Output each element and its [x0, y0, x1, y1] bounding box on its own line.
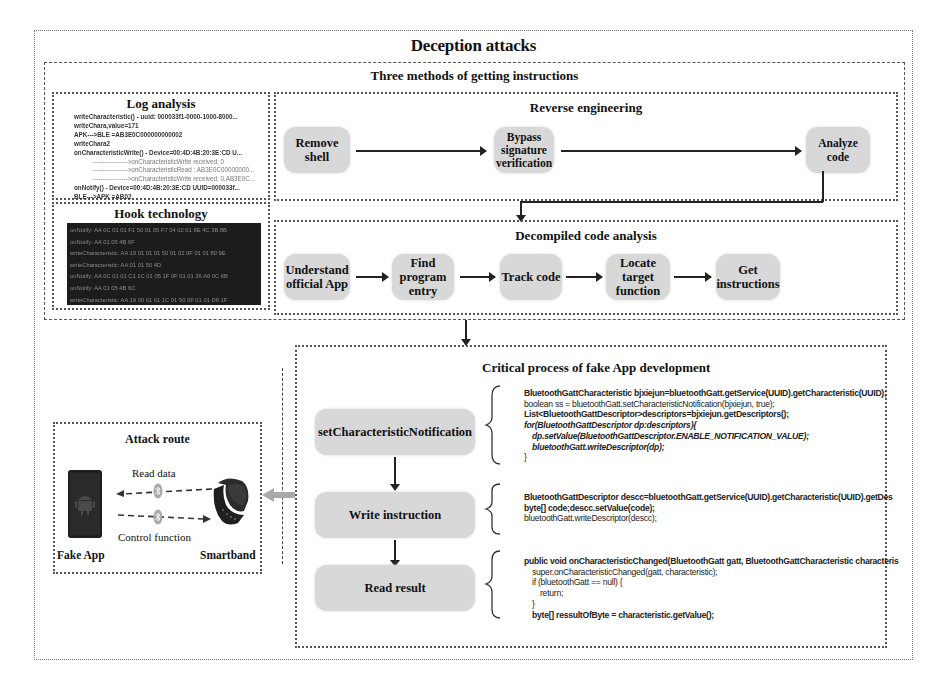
- connector-line: [822, 171, 824, 202]
- three-methods-title: Three methods of getting instructions: [44, 68, 905, 84]
- brace-icon: [484, 384, 504, 634]
- code-block-write: BluetoothGattDescriptor descc=bluetoothG…: [524, 492, 893, 524]
- code-line: bluetoothGatt.writeDescriptor(descc);: [524, 513, 893, 524]
- step-set-characteristic-notification: setCharacteristicNotification: [315, 409, 475, 455]
- control-function-label: Control function: [118, 531, 191, 543]
- log-line: ----------------->onCharacteristicWrite …: [74, 158, 262, 167]
- hook-line: writeCharacteristic: AA 19 01 01 01 50 0…: [70, 248, 258, 260]
- step-analyze-code: Analyze code: [806, 127, 870, 173]
- fake-app-label: Fake App: [57, 549, 105, 561]
- step-locate-target-function: Locate target function: [606, 254, 670, 300]
- code-line: boolean ss = bluetoothGatt.setCharacteri…: [524, 399, 887, 410]
- step-find-program-entry: Find program entry: [392, 254, 454, 300]
- log-line: APK--->BLE =AB3E0C000000000002: [74, 131, 262, 140]
- smartband-label: Smartband: [200, 549, 256, 561]
- reverse-engineering-panel: Reverse engineering Remove shell Bypass …: [274, 92, 898, 201]
- code-line: }: [524, 599, 899, 610]
- decompiled-code-analysis-title: Decompiled code analysis: [276, 228, 896, 244]
- control-function-arrow-icon: [114, 511, 214, 525]
- code-line: super.onCharacteristicChanged(gatt, char…: [524, 567, 899, 578]
- android-phone-icon: [68, 470, 102, 538]
- read-data-label: Read data: [132, 467, 176, 479]
- log-line: onCharacteristicWrite() - Device=00:4D:4…: [74, 149, 262, 158]
- log-line: writeChara2: [74, 140, 262, 149]
- log-line: onNotify() - Device=00:4D:4B:20:3E:CD UU…: [74, 184, 262, 193]
- arrow-down-icon: [465, 320, 467, 345]
- step-get-instructions: Get instructions: [716, 254, 780, 300]
- step-read-result: Read result: [315, 565, 475, 611]
- code-block-read: public void onCharacteristicChanged(Blue…: [524, 556, 899, 620]
- log-analysis-title: Log analysis: [54, 96, 268, 112]
- step-understand-official-app: Understand official App: [284, 254, 350, 300]
- arrow-down-icon: [520, 201, 522, 221]
- code-line: dp.setValue(BluetoothGattDescriptor.ENAB…: [524, 431, 887, 442]
- decompiled-code-analysis-panel: Decompiled code analysis Understand offi…: [274, 220, 898, 315]
- hook-line: onNotify: AA 0C 01 01 F1 50 01 05 F7 04 …: [70, 225, 258, 237]
- hook-line: onNotify: AA 0C 01 01 C1 1C 01 05 1F 0F …: [70, 271, 258, 283]
- code-line: for(BluetoothGattDescriptor dp:descripto…: [524, 420, 887, 431]
- arrow-right-icon: [561, 150, 801, 152]
- smartband-icon: [208, 475, 252, 527]
- separator-line: [282, 368, 283, 564]
- arrow-right-icon: [356, 150, 486, 152]
- hook-line: writeCharacteristic: AA 19 00 01 01 1C 0…: [70, 295, 258, 305]
- hook-technology-title: Hook technology: [54, 206, 268, 222]
- arrow-right-icon: [460, 276, 495, 278]
- code-line: return;: [524, 588, 899, 599]
- code-line: byte[] ressultOfByte = characteristic.ge…: [524, 610, 899, 621]
- arrow-right-icon: [674, 276, 711, 278]
- read-data-arrow-icon: [114, 484, 214, 498]
- code-line: byte[] code;descc.setValue(code);: [524, 503, 893, 514]
- arrow-right-icon: [356, 276, 388, 278]
- diagram-title: Deception attacks: [34, 36, 913, 56]
- log-line: writeCharacteristic() - uuid: 000033f1-0…: [74, 113, 262, 122]
- code-block-notification: BluetoothGattCharacteristic bjxiejun=blu…: [524, 388, 887, 463]
- attack-route-title: Attack route: [55, 432, 260, 447]
- step-remove-shell: Remove shell: [284, 127, 350, 173]
- log-line: BLE--->APK =AB02: [74, 193, 262, 202]
- hook-terminal-output: onNotify: AA 0C 01 01 F1 50 01 05 F7 04 …: [67, 223, 261, 305]
- code-line: BluetoothGattCharacteristic bjxiejun=blu…: [524, 388, 887, 399]
- log-line: ----------------->onCharacteristicRead :…: [74, 166, 262, 175]
- reverse-engineering-title: Reverse engineering: [276, 100, 896, 116]
- step-bypass-signature: Bypass signature verification: [494, 127, 554, 173]
- arrow-down-icon: [394, 457, 396, 490]
- step-write-instruction: Write instruction: [315, 492, 475, 538]
- code-line: BluetoothGattDescriptor descc=bluetoothG…: [524, 492, 893, 503]
- arrow-down-icon: [394, 540, 396, 566]
- bluetooth-icon: [153, 483, 163, 499]
- bluetooth-icon: [153, 509, 163, 525]
- log-line: ----------------->onCharacteristicWrite …: [74, 175, 262, 184]
- hook-line: onNotify: AA 01 05 4B 6F: [70, 237, 258, 249]
- hook-line: writeCharacteristic: AA 01 01 50 4D: [70, 260, 258, 272]
- arrow-right-icon: [566, 276, 602, 278]
- code-line: bluetoothGatt.writeDescriptor(dp);: [524, 442, 887, 453]
- hook-line: onNotify: AA 01 05 4B 6C: [70, 283, 258, 295]
- log-analysis-panel: Log analysis writeCharacteristic() - uui…: [52, 92, 270, 200]
- code-line: if (bluetoothGatt == null) {: [524, 577, 899, 588]
- hook-technology-panel: Hook technology onNotify: AA 0C 01 01 F1…: [52, 202, 270, 310]
- log-line: writeChara,value=171: [74, 122, 262, 131]
- grey-arrow-left-icon: [262, 488, 295, 502]
- connector-line: [520, 201, 823, 203]
- critical-process-title: Critical process of fake App development: [482, 360, 710, 376]
- code-line: List<BluetoothGattDescriptor>descriptors…: [524, 409, 887, 420]
- step-track-code: Track code: [500, 254, 562, 300]
- code-line: public void onCharacteristicChanged(Blue…: [524, 556, 899, 567]
- code-line: }: [524, 452, 887, 463]
- log-lines: writeCharacteristic() - uuid: 000033f1-0…: [74, 113, 262, 202]
